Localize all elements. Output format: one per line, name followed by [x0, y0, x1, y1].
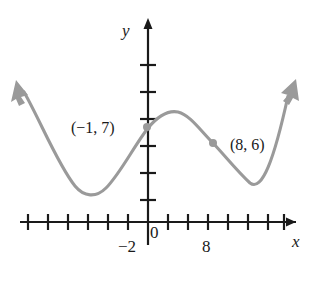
x-tick-label-minus-2: −2 [118, 238, 136, 255]
origin-label: 0 [150, 224, 159, 241]
curve-left-arrowhead-icon [11, 80, 28, 106]
point-annotation-minus1-7: (−1, 7) [71, 120, 115, 136]
marker-point-8-6[interactable] [209, 139, 217, 147]
curve-right-arrowhead-icon [281, 79, 299, 105]
marker-point-minus1-7[interactable] [143, 123, 151, 131]
function-graph-figure: y x 0 −2 8 (−1, 7) (8, 6) [0, 0, 314, 284]
y-axis-label: y [122, 22, 130, 39]
x-axis-arrowhead-icon [286, 218, 296, 227]
x-axis-label: x [292, 233, 300, 250]
point-annotation-8-6: (8, 6) [230, 137, 265, 153]
y-axis-arrowhead-icon [144, 18, 153, 29]
x-tick-label-8: 8 [202, 238, 211, 255]
y-axis [140, 18, 156, 245]
